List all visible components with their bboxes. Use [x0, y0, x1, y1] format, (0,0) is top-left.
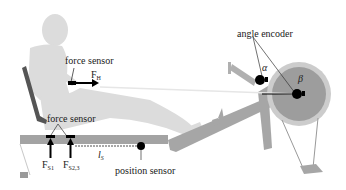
seat-force-sensor-2 — [66, 135, 75, 138]
seat-force-23-label: FS2,3 — [63, 160, 79, 171]
rail-support — [20, 144, 30, 175]
seat-force-1-subscript: S1 — [48, 165, 54, 171]
seat-rail — [20, 135, 168, 144]
beta-encoder-marker — [292, 89, 302, 99]
alpha-encoder-tab — [265, 77, 268, 82]
handle-force-label: FH — [91, 70, 101, 81]
beta-label: β — [298, 74, 303, 84]
rail-foot — [20, 172, 28, 178]
handle-rest — [230, 64, 256, 86]
seat-force-sensor-1 — [46, 135, 55, 138]
flywheel-foot — [300, 164, 323, 174]
rowing-ergometer-diagram: force sensor FH angle encoder α β force … — [0, 0, 346, 190]
alpha-encoder-marker — [255, 75, 265, 85]
position-sensor-marker — [137, 142, 145, 150]
beta-encoder-tab — [302, 91, 305, 96]
seat-force-1-label: FS1 — [42, 160, 54, 171]
handle-force-subscript: H — [97, 75, 101, 81]
position-sensor-label: position sensor — [115, 166, 175, 176]
handle-force-sensor-marker — [68, 81, 76, 85]
angle-encoder-label: angle encoder — [237, 29, 293, 39]
seat-force-sensor-label: force sensor — [47, 114, 96, 124]
handle-rest-cap — [228, 62, 231, 74]
seat-position-label: lS — [98, 150, 104, 161]
flywheel-support-right — [313, 118, 318, 168]
alpha-label: α — [262, 63, 267, 73]
handle-force-sensor-label: force sensor — [65, 56, 114, 66]
seat-force-23-subscript: S2,3 — [69, 165, 80, 171]
flywheel-support-left — [282, 120, 303, 168]
seat-position-subscript: S — [101, 155, 104, 161]
